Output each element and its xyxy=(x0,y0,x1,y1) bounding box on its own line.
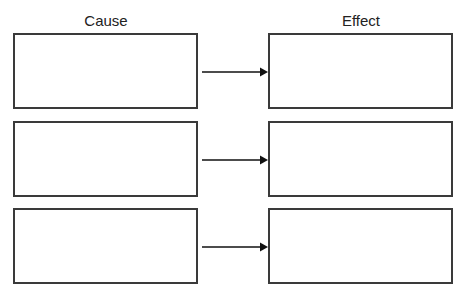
effect-header: Effect xyxy=(269,11,453,31)
effect-box-3[interactable] xyxy=(268,208,453,284)
cause-box-1[interactable] xyxy=(13,33,198,109)
cause-box-2[interactable] xyxy=(13,121,198,197)
cause-box-3[interactable] xyxy=(13,208,198,284)
effect-box-2[interactable] xyxy=(268,121,453,197)
right-arrow-icon xyxy=(201,154,269,166)
right-arrow-icon xyxy=(201,241,269,253)
right-arrow-icon xyxy=(201,66,269,78)
cause-header: Cause xyxy=(14,11,198,31)
effect-box-1[interactable] xyxy=(268,33,453,109)
